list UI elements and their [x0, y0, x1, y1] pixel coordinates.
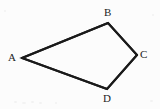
- vertex-label-b: B: [104, 7, 111, 18]
- geometry-figure: A B C D: [0, 0, 160, 109]
- quadrilateral-svg: [0, 0, 160, 109]
- vertex-label-c: C: [140, 49, 147, 60]
- vertex-label-d: D: [103, 93, 111, 104]
- vertex-label-a: A: [8, 52, 16, 63]
